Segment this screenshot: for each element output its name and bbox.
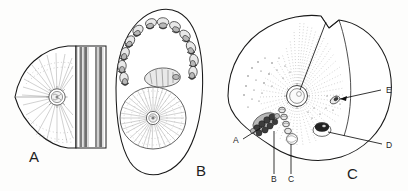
callout-letter-b: B — [271, 174, 277, 184]
panel-c-structure-c — [287, 134, 298, 145]
appendage-cluster — [117, 60, 126, 74]
callout-letter-e: E — [386, 85, 392, 95]
panel-a-banded-margin — [76, 46, 106, 148]
scientific-figure: A — [0, 0, 408, 191]
callout-letter-a: A — [233, 135, 239, 145]
panel-b-letter: B — [196, 162, 206, 179]
panel-c-letter: C — [347, 165, 358, 182]
panel-a-letter: A — [29, 148, 39, 165]
panel-b-radiating-disc — [120, 87, 186, 149]
callout-letter-d: D — [386, 140, 392, 150]
figure-root: A — [0, 0, 408, 191]
callout-letter-c: C — [288, 174, 294, 184]
panel-a-central-rosette — [46, 86, 67, 108]
